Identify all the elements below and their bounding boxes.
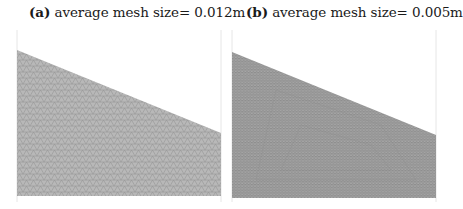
panel-b-caption: (b) average mesh size= 0.005m <box>246 4 463 20</box>
mesh-panel-a <box>16 30 222 202</box>
mesh-panel-b <box>231 30 437 202</box>
mesh-domain-b <box>232 52 436 198</box>
panel-b-caption-text: average mesh size= 0.005m <box>272 4 463 20</box>
mesh-plot-a <box>16 30 222 202</box>
panel-a-label: (a) <box>29 4 50 20</box>
mesh-domain-a <box>17 50 221 196</box>
mesh-plot-b <box>231 30 437 202</box>
panel-a-caption: (a) average mesh size= 0.012m <box>29 4 245 20</box>
panel-a-caption-text: average mesh size= 0.012m <box>54 4 245 20</box>
panel-b-label: (b) <box>246 4 268 20</box>
